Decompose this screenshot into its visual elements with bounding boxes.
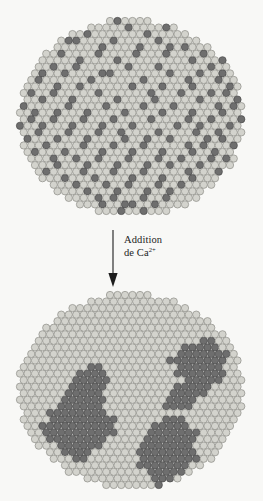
light-particle [54,449,61,456]
light-particle [133,377,140,384]
light-particle [133,455,140,462]
light-particle [208,168,215,175]
dark-particle [200,350,207,357]
light-particle [110,363,117,370]
light-particle [88,89,95,96]
light-particle [110,129,117,136]
light-particle [125,168,132,175]
light-particle [61,318,68,325]
light-particle [148,37,155,44]
light-particle [65,455,72,462]
dark-particle [151,449,158,456]
dark-particle [61,70,68,77]
dark-particle [189,435,196,442]
light-particle [121,435,128,442]
light-particle [159,122,166,129]
light-particle [114,344,121,351]
light-particle [129,462,136,469]
light-particle [166,344,173,351]
light-particle [110,403,117,410]
light-particle [151,331,158,338]
light-particle [204,96,211,103]
dark-particle [226,122,233,129]
light-particle [129,357,136,364]
light-particle [91,475,98,482]
dark-particle [170,416,177,423]
light-particle [170,194,177,201]
light-particle [114,70,121,77]
light-particle [99,135,106,142]
light-particle [148,155,155,162]
light-particle [65,63,72,70]
light-particle [155,168,162,175]
light-particle [133,337,140,344]
light-particle [58,103,65,110]
light-particle [61,331,68,338]
dark-particle [208,377,215,384]
light-particle [140,416,147,423]
light-particle [43,103,50,110]
light-particle [76,148,83,155]
light-particle [136,304,143,311]
light-particle [103,468,110,475]
light-particle [84,148,91,155]
light-particle [121,161,128,168]
light-particle [16,383,23,390]
dark-particle [200,377,207,384]
light-particle [181,148,188,155]
light-particle [196,331,203,338]
light-particle [121,175,128,182]
light-particle [211,175,218,182]
light-particle [28,142,35,149]
light-particle [91,148,98,155]
dark-particle [114,188,121,195]
dark-particle [61,422,68,429]
light-particle [46,83,53,90]
light-particle [129,57,136,64]
light-particle [163,377,170,384]
light-particle [170,116,177,123]
light-particle [76,109,83,116]
light-particle [151,161,158,168]
dark-particle [73,403,80,410]
light-particle [174,44,181,51]
dark-particle [185,403,192,410]
light-particle [174,409,181,416]
dark-particle [88,377,95,384]
light-particle [155,76,162,83]
light-particle [136,383,143,390]
light-particle [200,89,207,96]
dark-particle [163,442,170,449]
light-particle [50,377,57,384]
dark-particle [58,416,65,423]
light-particle [121,30,128,37]
light-particle [234,396,241,403]
light-particle [58,37,65,44]
dark-particle [159,109,166,116]
light-particle [121,409,128,416]
light-particle [136,318,143,325]
dark-particle [54,135,61,142]
light-particle [204,161,211,168]
dark-particle [65,429,72,436]
light-particle [73,76,80,83]
light-particle [148,298,155,305]
light-particle [99,304,106,311]
light-particle [95,337,102,344]
light-particle [88,350,95,357]
light-particle [159,304,166,311]
light-particle [118,390,125,397]
light-particle [99,175,106,182]
light-particle [76,304,83,311]
dark-particle [39,422,46,429]
light-particle [43,350,50,357]
light-particle [196,318,203,325]
dark-particle [170,455,177,462]
light-particle [91,201,98,208]
light-particle [39,435,46,442]
dark-particle [193,429,200,436]
dark-particle [91,370,98,377]
dark-particle [88,363,95,370]
light-particle [95,181,102,188]
light-particle [80,337,87,344]
